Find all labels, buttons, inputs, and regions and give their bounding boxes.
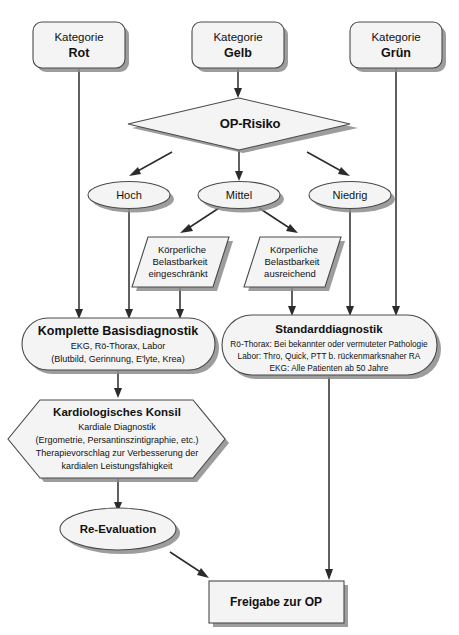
standarddiagnostik-line1: Rö-Thorax: Bei bekannter oder vermuteter… <box>230 339 428 349</box>
kategorie-gelb-label-line2: Gelb <box>224 46 252 60</box>
reevaluation-label: Re-Evaluation <box>80 523 157 535</box>
connector-gruen-to-standard <box>392 69 400 316</box>
node-risk-hoch[interactable]: Hoch <box>88 182 174 213</box>
eingeschraenkt-line3: eingeschränkt <box>148 268 208 279</box>
node-komplette-basisdiagnostik[interactable]: Komplette Basisdiagnostik EKG, Rö-Thorax… <box>22 318 219 374</box>
hoch-label: Hoch <box>116 189 142 201</box>
node-belastbarkeit-eingeschraenkt[interactable]: Körperliche Belastbarkeit eingeschränkt <box>132 237 233 291</box>
konsil-line1: Kardiale Diagnostik <box>78 422 156 432</box>
kategorie-rot-label-line1: Kategorie <box>54 31 103 43</box>
connector-niedrig-to-standard <box>346 209 354 316</box>
connector-gelb-to-diamond <box>234 69 242 98</box>
flowchart-canvas: Kategorie Rot Kategorie Gelb Kategorie G… <box>0 0 459 635</box>
mittel-label: Mittel <box>226 189 252 201</box>
connector-konsil-to-reevaluation <box>114 479 122 512</box>
connector-diamond-to-mittel <box>235 150 243 181</box>
connector-diamond-to-niedrig <box>307 152 350 176</box>
connector-standard-to-final <box>325 377 333 580</box>
connector-diamond-to-hoch <box>129 152 172 176</box>
node-kardiologisches-konsil[interactable]: Kardiologisches Konsil Kardiale Diagnost… <box>8 400 229 482</box>
node-kategorie-gruen[interactable]: Kategorie Grün <box>350 22 446 72</box>
op-risiko-label: OP-Risiko <box>220 116 281 131</box>
konsil-line4: kardialen Leistungsfähigkeit <box>61 461 173 471</box>
kategorie-rot-label-line2: Rot <box>69 46 91 60</box>
konsil-line3: Therapievorschlag zur Verbesserung der <box>36 448 199 458</box>
connector-ausreichend-to-standard <box>288 288 296 316</box>
konsil-title: Kardiologisches Konsil <box>53 406 181 418</box>
freigabe-label: Freigabe zur OP <box>230 595 322 609</box>
basisdiagnostik-line2: (Blutbild, Gerinnung, E'lyte, Krea) <box>51 354 184 364</box>
standarddiagnostik-line3: EKG: Alle Patienten ab 50 Jahre <box>269 363 388 373</box>
eingeschraenkt-line1: Körperliche <box>158 244 206 255</box>
connector-basis-to-konsil <box>114 371 122 398</box>
kategorie-gruen-label-line1: Kategorie <box>371 31 420 43</box>
kategorie-gruen-box <box>350 22 442 68</box>
ausreichend-line3: ausreichend <box>264 268 316 279</box>
node-standarddiagnostik[interactable]: Standarddiagnostik Rö-Thorax: Bei bekann… <box>222 315 441 379</box>
kategorie-gruen-label-line2: Grün <box>381 46 411 60</box>
node-risk-mittel[interactable]: Mittel <box>198 182 284 213</box>
connector-mittel-to-ausreichend <box>259 208 298 233</box>
ausreichend-line1: Körperliche <box>270 244 318 255</box>
node-kategorie-rot[interactable]: Kategorie Rot <box>33 22 129 72</box>
node-re-evaluation[interactable]: Re-Evaluation <box>60 508 180 554</box>
connector-hoch-to-basis <box>125 209 133 319</box>
konsil-line2: (Ergometrie, Persantinszintigraphie, etc… <box>35 435 198 445</box>
flowchart-svg: Kategorie Rot Kategorie Gelb Kategorie G… <box>0 0 459 635</box>
kategorie-gelb-box <box>192 22 284 68</box>
node-risk-niedrig[interactable]: Niedrig <box>309 182 395 213</box>
kategorie-gelb-label-line1: Kategorie <box>213 31 262 43</box>
basisdiagnostik-line1: EKG, Rö-Thorax, Labor <box>71 341 166 351</box>
connector-reevaluation-to-final <box>170 552 209 578</box>
niedrig-label: Niedrig <box>333 189 368 201</box>
standarddiagnostik-title: Standarddiagnostik <box>275 323 383 335</box>
connector-mittel-to-eingeschraenkt <box>180 208 219 233</box>
connector-rot-to-basis <box>75 69 83 319</box>
standarddiagnostik-line2: Labor: Thro, Quick, PTT b. rückenmarksna… <box>238 351 421 361</box>
node-op-risiko-decision[interactable]: OP-Risiko <box>128 98 358 153</box>
node-freigabe-zur-op[interactable]: Freigabe zur OP <box>209 581 348 627</box>
ausreichend-line2: Belastbarkeit <box>265 256 320 267</box>
kategorie-rot-box <box>33 22 125 68</box>
node-kategorie-gelb[interactable]: Kategorie Gelb <box>192 22 288 72</box>
connector-eingeschraenkt-to-basis <box>176 288 184 319</box>
eingeschraenkt-line2: Belastbarkeit <box>153 256 208 267</box>
node-belastbarkeit-ausreichend[interactable]: Körperliche Belastbarkeit ausreichend <box>244 237 345 291</box>
basisdiagnostik-title: Komplette Basisdiagnostik <box>38 324 198 338</box>
